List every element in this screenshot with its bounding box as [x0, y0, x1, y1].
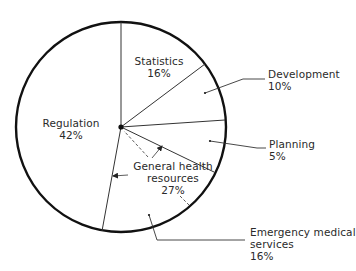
label-general-health-pct: 27%	[128, 184, 218, 196]
label-general-health-resources: General health resources 27%	[128, 160, 218, 196]
label-emergency-line1: Emergency medical	[250, 226, 356, 238]
label-general-health-line2: resources	[128, 172, 218, 184]
label-development-pct: 10%	[268, 80, 340, 92]
label-planning-name: Planning	[269, 138, 315, 150]
label-statistics: Statistics 16%	[133, 55, 185, 79]
label-emergency-line2: services	[250, 238, 356, 250]
label-emergency-pct: 16%	[250, 250, 356, 262]
label-general-health-line1: General health	[128, 160, 218, 172]
label-statistics-pct: 16%	[133, 67, 185, 79]
label-planning: Planning 5%	[269, 138, 315, 162]
label-regulation: Regulation 42%	[40, 117, 102, 141]
center-dot	[118, 124, 123, 129]
label-regulation-name: Regulation	[42, 117, 99, 129]
label-development: Development 10%	[268, 68, 340, 92]
label-regulation-pct: 42%	[40, 129, 102, 141]
label-emergency-medical-services: Emergency medical services 16%	[250, 226, 356, 262]
label-planning-pct: 5%	[269, 150, 315, 162]
label-statistics-name: Statistics	[135, 55, 184, 67]
label-development-name: Development	[268, 68, 340, 80]
